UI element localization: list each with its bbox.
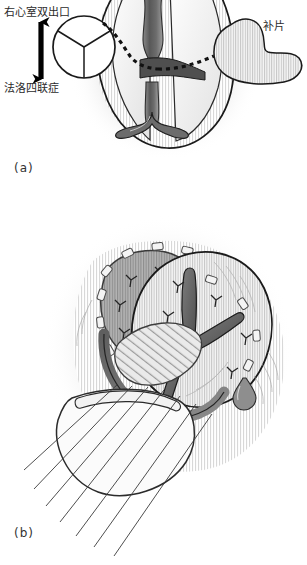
label-patch: 补片 bbox=[263, 20, 285, 33]
patch-outline bbox=[214, 19, 302, 84]
panel-label-b: (b) bbox=[14, 526, 34, 540]
surgical-figure: 右心室双出口 法洛四联症 补片 (a) bbox=[0, 0, 307, 565]
inferior-patch bbox=[57, 389, 195, 495]
panel-a: 右心室双出口 法洛四联症 补片 (a) bbox=[4, 0, 302, 175]
patch-shape bbox=[214, 19, 302, 84]
panel-label-a: (a) bbox=[14, 161, 34, 175]
label-tof: 法洛四联症 bbox=[4, 81, 59, 95]
interventricular-septum-superior bbox=[142, 0, 164, 58]
label-dorv: 右心室双出口 bbox=[4, 5, 70, 19]
panel-b: (b) bbox=[14, 215, 293, 556]
